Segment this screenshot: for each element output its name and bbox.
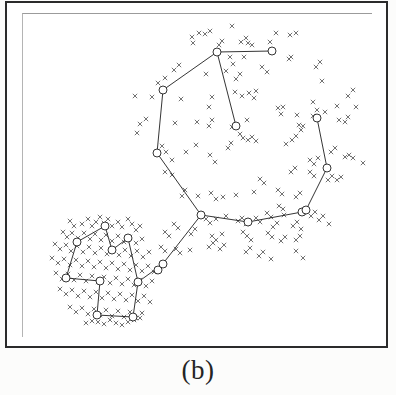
scatter-point-marker <box>213 160 217 164</box>
scatter-point-marker <box>249 238 253 242</box>
scatter-point-marker <box>361 161 365 165</box>
scatter-point-marker <box>274 31 278 35</box>
graph-edge <box>128 238 138 282</box>
graph-node-n0 <box>213 48 221 56</box>
scatter-point-marker <box>346 115 350 119</box>
scatter-point-marker <box>80 306 84 310</box>
scatter-point-marker <box>315 108 319 112</box>
scatter-point-marker <box>96 320 100 324</box>
scatter-point-marker <box>245 234 249 238</box>
scatter-point-marker <box>70 231 74 235</box>
graph-edge <box>248 212 302 222</box>
scatter-point-marker <box>245 118 249 122</box>
scatter-point-marker <box>208 29 212 33</box>
scatter-point-marker <box>110 239 114 243</box>
scatter-point-marker <box>84 321 88 325</box>
scatter-point-marker <box>222 243 226 247</box>
scatter-point-marker <box>252 96 256 100</box>
scatter-point-marker <box>244 250 248 254</box>
scatter-point-marker <box>94 290 98 294</box>
scatter-point-marker <box>337 118 341 122</box>
scatter-point-marker <box>104 266 108 270</box>
scatter-point-marker <box>82 231 86 235</box>
scatter-point-marker <box>224 214 228 218</box>
graph-edge <box>317 118 327 168</box>
scatter-point-marker <box>61 230 65 234</box>
scatter-point-marker <box>106 217 110 221</box>
scatter-point-marker <box>229 141 233 145</box>
scatter-point-marker <box>191 41 195 45</box>
scatter-point-marker <box>238 132 242 136</box>
graph-node-n14 <box>124 234 132 242</box>
scatter-point-marker <box>208 221 212 225</box>
scatter-point-marker <box>102 322 106 326</box>
scatter-point-marker <box>130 293 134 297</box>
scatter-point-marker <box>65 235 69 239</box>
scatter-point-marker <box>100 296 104 300</box>
scatter-point-marker <box>78 273 82 277</box>
scatter-point-marker <box>172 68 176 72</box>
scatter-point-marker <box>210 95 214 99</box>
scatter-point-marker <box>254 89 258 93</box>
graph-node-n8 <box>302 206 310 214</box>
scatter-point-marker <box>197 31 201 35</box>
graph-node-n6 <box>244 218 252 226</box>
scatter-point-marker <box>301 124 305 128</box>
scatter-point-marker <box>86 217 90 221</box>
scatter-point-marker <box>94 220 98 224</box>
scatter-point-marker <box>110 224 114 228</box>
scatter-point-marker <box>190 35 194 39</box>
graph-node-n15 <box>108 246 116 254</box>
graph-edge <box>97 281 100 315</box>
scatter-point-marker <box>280 192 284 196</box>
scatter-point-marker <box>179 97 183 101</box>
scatter-point-marker <box>275 221 279 225</box>
scatter-point-marker <box>86 259 90 263</box>
graph-edge <box>66 278 100 281</box>
scatter-point-marker <box>327 222 331 226</box>
scatter-point-marker <box>144 117 148 121</box>
graph-edge <box>97 315 133 317</box>
scatter-point-marker <box>299 227 303 231</box>
scatter-point-marker <box>265 70 269 74</box>
scatter-point-marker <box>128 268 132 272</box>
scatter-point-marker <box>163 249 167 253</box>
scatter-point-marker <box>207 124 211 128</box>
scatter-point-marker <box>266 231 270 235</box>
scatter-point-marker <box>220 39 224 43</box>
scatter-point-marker <box>68 305 72 309</box>
scatter-point-marker <box>160 144 164 148</box>
scatter-point-marker <box>203 32 207 36</box>
scatter-point-marker <box>287 57 291 61</box>
scatter-point-marker <box>260 65 264 69</box>
scatter-point-marker <box>268 40 272 44</box>
scatter-point-marker <box>234 77 238 81</box>
scatter-point-marker <box>90 319 94 323</box>
scatter-point-marker <box>163 230 167 234</box>
scatter-point-marker <box>93 251 97 255</box>
scatter-point-marker <box>294 31 298 35</box>
scatter-point-marker <box>343 155 347 159</box>
scatter-point-marker <box>299 128 303 132</box>
scatter-point-marker <box>335 178 339 182</box>
scatter-point-marker <box>123 248 127 252</box>
scatter-point-marker <box>281 207 285 211</box>
scatter-point-marker <box>281 105 285 109</box>
scatter-point-marker <box>88 237 92 241</box>
scatter-point-marker <box>289 170 293 174</box>
graph-edge <box>306 168 327 210</box>
scatter-point-marker <box>62 257 66 261</box>
scatter-point-marker <box>210 234 214 238</box>
scatter-point-marker <box>333 146 337 150</box>
scatter-point-marker <box>148 300 152 304</box>
scatter-point-marker <box>82 289 86 293</box>
scatter-point-marker <box>56 261 60 265</box>
scatter-point-marker <box>271 225 275 229</box>
scatter-point-marker <box>140 269 144 273</box>
scatter-point-marker <box>130 222 134 226</box>
scatter-point-marker <box>140 237 144 241</box>
scatter-point-marker <box>240 216 244 220</box>
scatter-point-marker <box>248 246 252 250</box>
graph-nodes-layer <box>62 47 331 321</box>
scatter-point-marker <box>239 40 243 44</box>
